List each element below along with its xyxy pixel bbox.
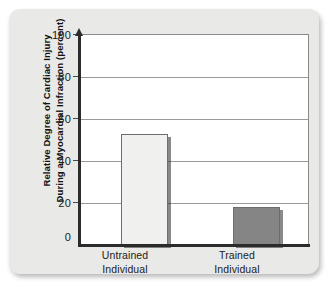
y-axis-line (78, 32, 81, 247)
y-tick-label-20: 20 (47, 197, 71, 209)
chart-figure: Relative Degree of Cardiac Injury During… (0, 0, 333, 288)
gridline-20 (81, 203, 308, 204)
gridline-80 (81, 77, 308, 78)
x-category-label-trained: Trained Individual (199, 249, 275, 277)
bar-untrained-individual (121, 134, 168, 245)
bar-trained-individual (233, 207, 280, 245)
y-tick-label-60: 60 (47, 113, 71, 125)
chart-panel: Relative Degree of Cardiac Injury During… (9, 9, 319, 274)
x-category-label-untrained-line-1: Untrained (87, 249, 163, 263)
y-tick-label-40: 40 (47, 155, 71, 167)
y-tick-label-80: 80 (47, 71, 71, 83)
plot-area (80, 34, 309, 246)
y-axis-arrow-icon (75, 28, 83, 36)
x-category-label-trained-line-2: Individual (199, 263, 275, 277)
x-axis-line (78, 244, 310, 247)
y-tick-label-0: 0 (47, 231, 71, 243)
x-category-label-trained-line-1: Trained (199, 249, 275, 263)
gridline-40 (81, 161, 308, 162)
x-category-label-untrained-line-2: Individual (87, 263, 163, 277)
gridline-60 (81, 119, 308, 120)
y-tick-label-100: 100 (47, 29, 71, 41)
x-category-label-untrained: Untrained Individual (87, 249, 163, 277)
